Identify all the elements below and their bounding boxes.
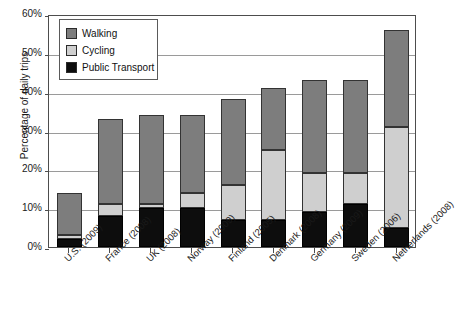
y-tick-mark (45, 210, 49, 211)
y-tick-mark (45, 94, 49, 95)
bar-segment-walking[interactable] (221, 99, 246, 184)
legend-label: Walking (82, 28, 117, 39)
bar-segment-cycling[interactable] (302, 173, 327, 212)
legend-swatch-icon (66, 62, 77, 73)
y-tick-mark (45, 171, 49, 172)
y-tick-label: 50% (0, 47, 42, 58)
y-tick-label: 0% (0, 241, 42, 252)
bar-segment-walking[interactable] (98, 119, 123, 204)
bar-segment-cycling[interactable] (139, 204, 164, 208)
bar[interactable] (180, 115, 205, 247)
bar-segment-walking[interactable] (139, 115, 164, 204)
y-tick-mark (45, 133, 49, 134)
y-tick-label: 10% (0, 202, 42, 213)
legend-item[interactable]: Cycling (66, 42, 151, 59)
legend-label: Public Transport (82, 62, 154, 73)
bar-segment-walking[interactable] (343, 80, 368, 173)
bar-segment-walking[interactable] (180, 115, 205, 193)
bar-segment-cycling[interactable] (343, 173, 368, 204)
bar-segment-walking[interactable] (57, 193, 82, 236)
bar-segment-walking[interactable] (261, 88, 286, 150)
bar-segment-walking[interactable] (384, 30, 409, 127)
y-tick-label: 40% (0, 86, 42, 97)
bar-segment-cycling[interactable] (261, 150, 286, 220)
y-tick-label: 30% (0, 125, 42, 136)
y-tick-mark (45, 249, 49, 250)
bar-segment-walking[interactable] (302, 80, 327, 173)
legend-item[interactable]: Walking (66, 25, 151, 42)
bar-segment-cycling[interactable] (98, 204, 123, 216)
legend-swatch-icon (66, 28, 77, 39)
y-tick-label: 60% (0, 8, 42, 19)
legend-label: Cycling (82, 45, 115, 56)
chart-legend: WalkingCyclingPublic Transport (59, 19, 158, 80)
bar-segment-cycling[interactable] (221, 185, 246, 220)
y-tick-mark (45, 16, 49, 17)
y-tick-mark (45, 55, 49, 56)
legend-swatch-icon (66, 45, 77, 56)
bar-segment-cycling[interactable] (180, 193, 205, 209)
y-tick-label: 20% (0, 163, 42, 174)
legend-item[interactable]: Public Transport (66, 59, 151, 76)
